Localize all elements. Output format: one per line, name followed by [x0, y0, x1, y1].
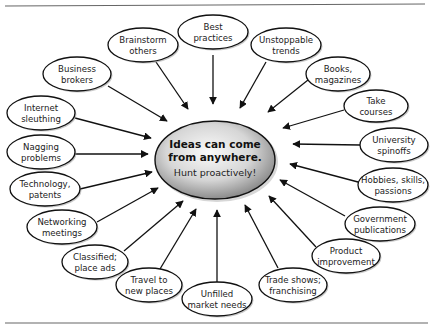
arrow-internet-sleuthing [75, 118, 151, 138]
arrow-classified-place-ads [124, 201, 183, 251]
node-government-publications: Governmentpublications [345, 207, 417, 243]
arrow-trade-shows-franchising [245, 205, 278, 268]
node-label-line: courses [359, 107, 393, 117]
node-label-line: Government [353, 214, 407, 224]
arrow-take-courses [283, 110, 344, 128]
node-label-line: meetings [42, 228, 83, 238]
node-label-line: brokers [61, 75, 94, 85]
node-label-line: publications [354, 225, 407, 235]
node-label-line: problems [21, 153, 62, 163]
node-technology-patents: Technology,patents [10, 172, 82, 208]
node-label-line: Take [365, 96, 385, 106]
node-label-line: Trade shows; [264, 275, 321, 285]
node-label-line: sleuthing [21, 114, 61, 124]
arrow-brainstorm-others [156, 62, 188, 109]
node-business-brokers: Businessbrokers [43, 57, 113, 93]
arrow-hobbies-skills-passions [290, 164, 358, 182]
arrow-product-improvement [269, 196, 316, 247]
arrow-networking-meetings [97, 188, 158, 222]
node-label-line: Unfilled [201, 289, 234, 299]
node-unfilled-market-needs: Unfilledmarket needs [182, 282, 254, 318]
node-label-line: magazines [315, 75, 362, 85]
node-product-improvement: Productimprovement [312, 239, 382, 275]
node-label-line: Business [58, 64, 96, 74]
node-trade-shows-franchising: Trade shows;franchising [259, 268, 329, 304]
node-label-line: spinoffs [377, 146, 411, 156]
node-label-line: improvement [317, 257, 375, 267]
node-label-line: Nagging [23, 142, 59, 152]
node-label-line: Product [330, 246, 363, 256]
node-internet-sleuthing: Internetsleuthing [7, 96, 77, 132]
arrow-unstoppable-trends [240, 62, 266, 108]
idea-sources-diagram: BestpracticesUnstoppabletrendsBooks,maga… [0, 0, 433, 328]
node-label-line: Brainstorm [119, 35, 166, 45]
node-label-line: Networking [37, 217, 86, 227]
node-label-line: trends [272, 46, 300, 56]
node-label-line: Travel to [130, 275, 168, 285]
node-label-line: Internet [24, 103, 59, 113]
node-label-line: new places [125, 286, 174, 296]
arrow-business-brokers [108, 86, 167, 121]
node-nagging-problems: Naggingproblems [7, 135, 77, 171]
arrow-university-spinoffs [293, 144, 360, 145]
arrow-government-publications [280, 180, 345, 216]
node-label-line: Books, [324, 64, 353, 74]
node-label-line: Unstoppable [259, 35, 313, 45]
node-hobbies-skills-passions: Hobbies, skills,passions [358, 168, 430, 204]
top-rule [5, 4, 425, 6]
center-node: Ideas can come from anywhere. Hunt proac… [155, 121, 278, 202]
node-label-line: University [372, 135, 415, 145]
node-label-line: place ads [74, 263, 116, 273]
center-title-line-1: Ideas can come [169, 138, 260, 150]
arrow-books-magazines [268, 80, 308, 112]
node-label-line: passions [374, 186, 412, 196]
center-title-line-2: from anywhere. [168, 151, 262, 163]
node-networking-meetings: Networkingmeetings [27, 210, 99, 246]
node-label-line: Classified; [73, 252, 117, 262]
center-subtitle: Hunt proactively! [174, 167, 256, 178]
node-label-line: Hobbies, skills, [361, 175, 425, 185]
node-best-practices: Bestpractices [178, 15, 250, 51]
arrow-travel-to-new-places [160, 209, 196, 269]
node-label-line: franchising [269, 286, 317, 296]
node-unstoppable-trends: Unstoppabletrends [251, 28, 323, 64]
node-label-line: others [129, 46, 157, 56]
node-label-line: practices [193, 33, 233, 43]
arrow-technology-patents [80, 172, 152, 189]
node-brainstorm-others: Brainstormothers [108, 28, 180, 64]
node-label-line: Technology, [19, 179, 71, 189]
node-label-line: market needs [187, 300, 247, 310]
node-take-courses: Takecourses [344, 90, 410, 124]
node-university-spinoffs: Universityspinoffs [360, 128, 430, 164]
node-books-magazines: Books,magazines [306, 57, 372, 93]
node-label-line: patents [29, 190, 62, 200]
node-travel-to-new-places: Travel tonew places [116, 268, 184, 304]
node-label-line: Best [203, 22, 223, 32]
node-classified-place-ads: Classified;place ads [62, 245, 130, 281]
